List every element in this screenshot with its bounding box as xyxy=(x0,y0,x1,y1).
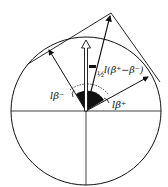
label-half-diff: l(β⁺−β⁻) xyxy=(104,64,144,75)
tangent-left xyxy=(28,13,111,64)
half-diff-marker xyxy=(89,65,96,68)
label-beta-minus: lβ⁻ xyxy=(50,90,64,101)
label-beta-plus: lβ⁺ xyxy=(112,99,126,110)
vector-beta-minus xyxy=(49,50,86,111)
diagram-canvas: lβ⁻ lβ⁺ ½ l(β⁺−β⁻) xyxy=(0,0,168,187)
